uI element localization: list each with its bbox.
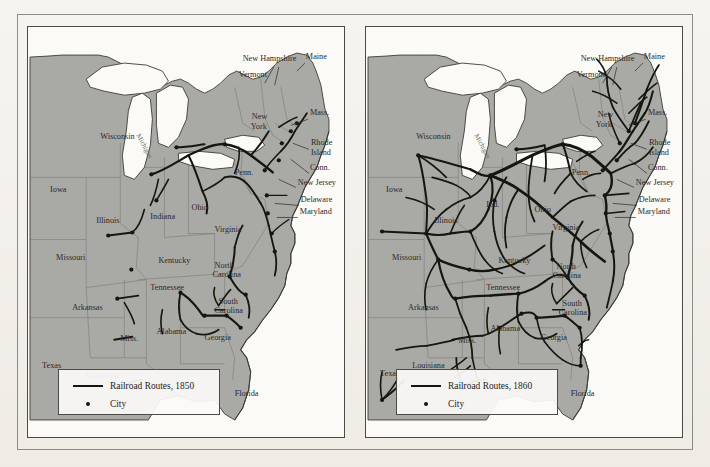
state-label: Rhode — [311, 138, 333, 147]
legend-1850: Railroad Routes, 1850 City — [58, 369, 220, 415]
city-dot — [516, 292, 520, 296]
city-dot — [174, 145, 178, 149]
city-dot-icon — [73, 402, 103, 406]
state-label: Florida — [235, 389, 259, 398]
city-dot — [289, 129, 293, 133]
state-label: Mass. — [310, 108, 329, 117]
state-label: Indiana — [150, 212, 175, 221]
state-label: Miss. — [120, 334, 138, 343]
city-dot — [603, 193, 607, 197]
city-dot — [468, 229, 472, 233]
state-label: Carolina — [213, 270, 242, 279]
state-label: Conn. — [648, 163, 668, 172]
state-label: Carolina — [215, 306, 244, 315]
state-label: Kentucky — [158, 256, 191, 265]
state-label: Island — [649, 148, 670, 157]
state-label: Iowa — [386, 185, 403, 194]
state-label: New Hampshire — [243, 54, 297, 63]
map-panel-1850: WisconsinIowaIllinoisMissouriIndianaOhio… — [27, 26, 345, 438]
city-dot — [416, 153, 420, 157]
city-dot — [266, 211, 270, 215]
state-label: Missouri — [392, 253, 422, 262]
city-dot — [519, 312, 523, 316]
state-label: York — [596, 120, 613, 129]
state-label: Miss. — [458, 336, 476, 345]
legend-city-label: City — [448, 399, 464, 409]
state-label: Maryland — [638, 207, 671, 216]
state-label: Carolina — [559, 308, 588, 317]
state-label: Tennessee — [150, 283, 184, 292]
legend-1860: Railroad Routes, 1860 City — [396, 369, 558, 415]
city-dot — [154, 198, 158, 202]
city-dot — [608, 231, 612, 235]
state-label: New Hampshire — [581, 54, 635, 63]
city-dot — [244, 293, 248, 297]
state-label: Wisconsin — [100, 132, 134, 141]
city-dot — [202, 314, 206, 318]
city-dot — [601, 168, 605, 172]
state-label: Conn. — [310, 163, 330, 172]
city-dot — [424, 231, 428, 235]
city-dot — [583, 294, 587, 298]
state-label: New — [598, 110, 614, 119]
city-dot — [453, 297, 457, 301]
state-label: South — [219, 297, 238, 306]
state-label: Arkansas — [408, 303, 439, 312]
state-label: New — [252, 112, 268, 121]
state-label: Illinois — [96, 216, 119, 225]
state-label: North — [557, 262, 576, 271]
state-label: Penn. — [572, 168, 591, 177]
state-label: Alabama — [490, 324, 520, 333]
city-dot — [615, 158, 619, 162]
city-dot — [550, 257, 554, 261]
state-label: Wisconsin — [416, 132, 450, 141]
city-dot — [239, 326, 243, 330]
state-label: Ohio — [535, 205, 551, 214]
city-dot — [467, 267, 471, 271]
legend-row-city: City — [397, 395, 557, 413]
city-dot-icon — [411, 402, 441, 406]
state-label: Delaware — [301, 195, 333, 204]
state-label: Rhode — [649, 138, 671, 147]
city-dot — [604, 211, 608, 215]
state-label: Kentucky — [498, 256, 531, 265]
state-label: Maryland — [300, 207, 333, 216]
state-label: South — [563, 299, 582, 308]
city-dot — [129, 267, 133, 271]
legend-city-label: City — [110, 399, 126, 409]
state-label: Vermont — [239, 70, 268, 79]
state-label: Island — [311, 148, 332, 157]
state-label: Carolina — [553, 271, 582, 280]
state-label: Virginia — [553, 223, 580, 232]
state-label: Georgia — [541, 333, 568, 342]
city-dot — [115, 297, 119, 301]
state-label: Alabama — [156, 327, 186, 336]
state-label: Delaware — [639, 195, 671, 204]
legend-row-city: City — [59, 395, 219, 413]
city-dot — [611, 249, 615, 253]
state-label: New Jersey — [636, 178, 675, 187]
city-dot — [273, 249, 277, 253]
state-label: York — [251, 122, 268, 131]
legend-routes-label: Railroad Routes, 1860 — [448, 381, 532, 391]
state-label: Virginia — [215, 226, 242, 235]
city-dot — [106, 233, 110, 237]
city-dot — [627, 129, 631, 133]
state-label: Ind. — [486, 200, 499, 209]
state-label: Missouri — [56, 253, 86, 262]
railroad-line-icon — [73, 385, 103, 387]
state-label: Penn. — [235, 168, 254, 177]
state-label: Arkansas — [72, 303, 103, 312]
city-dot — [130, 230, 134, 234]
city-dot — [579, 364, 583, 368]
state-label: Florida — [571, 389, 595, 398]
state-label: Vermont — [577, 70, 606, 79]
city-dot — [578, 326, 582, 330]
city-dot — [380, 229, 384, 233]
city-dot — [488, 173, 492, 177]
state-label: Georgia — [205, 333, 232, 342]
state-label: Tennessee — [486, 283, 520, 292]
state-label: North — [215, 261, 234, 270]
city-dot — [223, 142, 227, 146]
city-dot — [149, 172, 153, 176]
